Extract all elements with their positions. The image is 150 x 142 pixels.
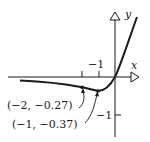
y-tick-label-neg1: −1: [96, 109, 112, 122]
inflection-point-label: (−2, −0.27): [7, 99, 73, 112]
x-axis-arrow-icon: [131, 72, 139, 82]
inflection-point-marker: [80, 86, 84, 90]
minimum-point-label: (−1, −0.37): [12, 118, 78, 131]
y-axis-arrow-icon: [110, 12, 120, 20]
function-graph: y x −1 −1 (−2, −0.27) (−1, −0.37): [0, 0, 150, 142]
minimum-point-marker: [96, 89, 100, 93]
x-tick-label-neg1: −1: [88, 58, 104, 71]
x-axis-label: x: [131, 59, 138, 72]
y-axis-label: y: [124, 8, 132, 21]
curve: [20, 17, 137, 91]
